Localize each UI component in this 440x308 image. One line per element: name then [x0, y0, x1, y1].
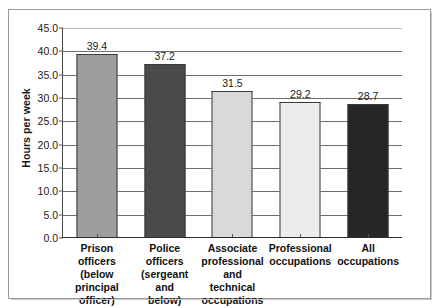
y-tick-label: 35.0 — [38, 69, 58, 81]
y-tick-label: 15.0 — [38, 162, 58, 174]
bar-slot: 31.5 — [199, 28, 267, 238]
y-tick-label: 40.0 — [38, 45, 58, 57]
bar-slot: 29.2 — [266, 28, 334, 238]
y-tick-label: 20.0 — [38, 139, 58, 151]
bar[interactable] — [76, 54, 117, 238]
category-label-line: and technical — [200, 268, 266, 294]
bar-value-label: 37.2 — [154, 50, 174, 62]
bar[interactable] — [280, 102, 321, 238]
bar-value-label: 39.4 — [87, 40, 107, 52]
plot-area: 45.040.035.030.025.020.015.010.05.00.0 3… — [63, 28, 402, 238]
category-label-line: occupations — [267, 255, 333, 268]
bar[interactable] — [212, 91, 253, 238]
category-label-line: All occupations — [335, 242, 401, 268]
y-tick-label: 45.0 — [38, 22, 58, 34]
bar-slot: 39.4 — [63, 28, 131, 238]
bar[interactable] — [348, 104, 389, 238]
bar-value-label: 29.2 — [290, 88, 310, 100]
x-axis-category-label: Prison officers(belowprincipalofficer) — [63, 242, 131, 307]
category-label-line: (below — [64, 268, 130, 281]
y-tick-label: 30.0 — [38, 92, 58, 104]
category-label-line: Prison officers — [64, 242, 130, 268]
bar-slot: 37.2 — [131, 28, 199, 238]
x-axis-category-labels: Prison officers(belowprincipalofficer)Po… — [63, 242, 402, 307]
category-label-line: principal — [64, 281, 130, 294]
chart-frame: Hours per week 45.040.035.030.025.020.01… — [8, 9, 431, 299]
x-axis-category-label: All occupations — [334, 242, 402, 307]
category-label-line: Police officers — [132, 242, 198, 268]
y-tick-label: 10.0 — [38, 185, 58, 197]
y-tick-label: 25.0 — [38, 115, 58, 127]
category-label-line: (sergeant and — [132, 268, 198, 294]
category-label-line: Associate — [200, 242, 266, 255]
plot-inner: 45.040.035.030.025.020.015.010.05.00.0 3… — [63, 28, 402, 238]
bar-value-label: 28.7 — [358, 90, 378, 102]
category-label-line: officer) — [64, 294, 130, 307]
bar-series: 39.437.231.529.228.7 — [63, 28, 402, 238]
x-axis-category-label: Professionaloccupations — [266, 242, 334, 307]
y-tick-label: 0.0 — [43, 232, 58, 244]
x-axis-line — [62, 237, 402, 238]
y-axis-title-label: Hours per week — [20, 88, 32, 168]
x-axis-category-label: Associateprofessionaland technicaloccupa… — [199, 242, 267, 307]
y-tick-label: 5.0 — [43, 209, 58, 221]
category-label-line: professional — [200, 255, 266, 268]
y-axis-title: Hours per week — [18, 28, 34, 228]
bar-slot: 28.7 — [334, 28, 402, 238]
x-axis-category-label: Police officers(sergeant andbelow) — [131, 242, 199, 307]
bar[interactable] — [144, 64, 185, 238]
bar-value-label: 31.5 — [222, 77, 242, 89]
category-label-line: Professional — [267, 242, 333, 255]
category-label-line: below) — [132, 294, 198, 307]
category-label-line: occupations — [200, 294, 266, 307]
